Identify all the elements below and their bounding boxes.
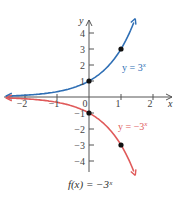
y-tick-label: 4 [80,28,85,39]
data-point [118,142,123,147]
graph-caption: f(x) = −3ˣ [0,178,180,190]
data-point [86,78,91,83]
data-point [118,46,123,51]
y-tick-label: −2 [74,124,85,135]
y-tick-label: 2 [80,60,85,71]
y-tick-label: −4 [74,156,85,167]
series-label: y = −3x [118,120,148,132]
x-tick-label: 1 [116,98,121,109]
y-tick-label: −1 [74,108,85,119]
data-point [86,110,91,115]
series-label: y = 3x [122,61,147,73]
axes [4,20,172,172]
function-graph: xy−2−1012−4−3−2−11234y = 3xy = −3x [0,0,180,197]
y-axis-label: y [78,15,84,26]
labels: xy−2−1012−4−3−2−11234y = 3xy = −3x [17,15,173,167]
y-tick-label: −3 [74,140,85,151]
x-tick-label: −2 [17,98,28,109]
y-tick-label: 1 [80,76,85,87]
y-tick-label: 3 [80,44,85,55]
curve-y-3-pow-x [6,23,134,97]
x-tick-label: −1 [49,98,60,109]
x-tick-label: 2 [148,98,153,109]
x-axis-label: x [167,98,173,109]
